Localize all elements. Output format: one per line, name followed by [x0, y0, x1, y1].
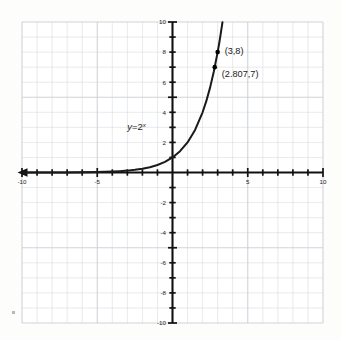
y-tick-label: 8	[163, 48, 167, 55]
y-tick-label: -4	[160, 229, 166, 236]
x-tick-label: 10	[320, 178, 327, 185]
function-label-base: =2	[132, 121, 143, 132]
y-tick-label: -10	[157, 319, 167, 326]
y-tick-label: -8	[160, 289, 166, 296]
y-tick-label: 10	[159, 18, 166, 25]
y-tick-label: 2	[163, 139, 167, 146]
data-point-marker	[215, 50, 220, 55]
data-point-marker	[212, 65, 217, 70]
x-tick-label: 5	[246, 178, 250, 185]
y-tick-label: -2	[160, 199, 166, 206]
graph-figure: -10-5510 -10-8-6-4-2246810 (3,8)(2.807,7…	[0, 0, 341, 340]
coordinate-plane-svg: -10-5510 -10-8-6-4-2246810 (3,8)(2.807,7…	[0, 0, 341, 340]
data-point-label: (2.807,7)	[222, 69, 259, 79]
data-point-label: (3,8)	[225, 46, 244, 56]
y-tick-label: 4	[163, 109, 167, 116]
scan-artifact-speck	[12, 311, 15, 314]
y-tick-label: 6	[163, 79, 167, 86]
plot-background	[0, 0, 341, 340]
y-tick-label: -6	[160, 259, 166, 266]
x-tick-label: -5	[94, 178, 100, 185]
x-tick-label: -10	[18, 178, 28, 185]
